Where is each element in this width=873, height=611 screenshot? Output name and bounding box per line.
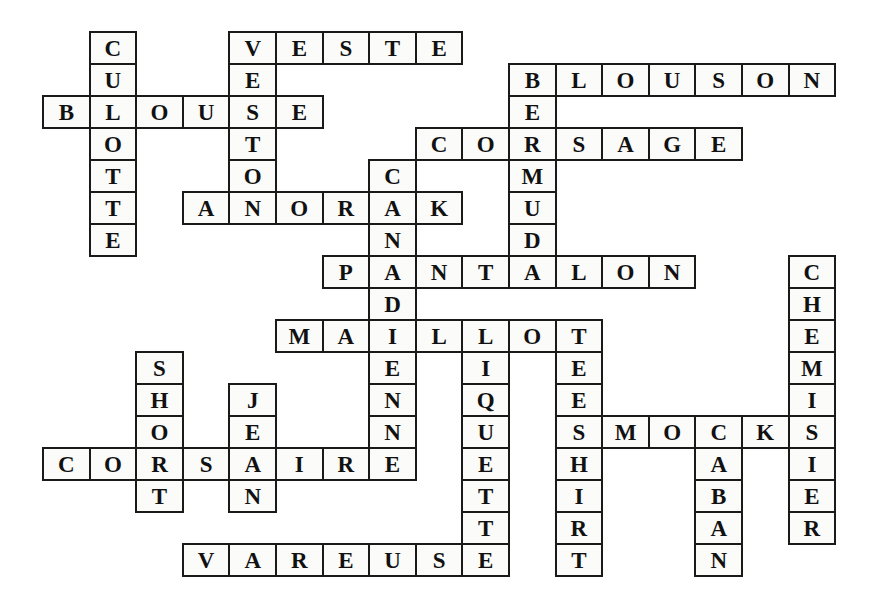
crossword-cell: I bbox=[368, 319, 417, 353]
crossword-cell: L bbox=[89, 95, 138, 129]
crossword-cell: E bbox=[275, 95, 324, 129]
crossword-cell: U bbox=[508, 191, 557, 225]
crossword-cell: S bbox=[415, 543, 464, 577]
crossword-cell: O bbox=[275, 191, 324, 225]
crossword-cell: S bbox=[555, 127, 604, 161]
crossword-cell: U bbox=[648, 63, 697, 97]
crossword-cell: T bbox=[555, 319, 604, 353]
crossword-cell: O bbox=[648, 415, 697, 449]
crossword-cell: R bbox=[788, 511, 837, 545]
crossword-cell: S bbox=[788, 415, 837, 449]
crossword-cell: O bbox=[601, 63, 650, 97]
crossword-cell: C bbox=[694, 415, 743, 449]
crossword-cell: O bbox=[89, 447, 138, 481]
crossword-cell: E bbox=[228, 415, 277, 449]
crossword-cell: E bbox=[788, 479, 837, 513]
crossword-cell: N bbox=[788, 63, 837, 97]
crossword-cell: N bbox=[415, 255, 464, 289]
crossword-cell: M bbox=[788, 351, 837, 385]
crossword-cell: R bbox=[508, 127, 557, 161]
crossword-cell: I bbox=[555, 479, 604, 513]
crossword-cell: N bbox=[228, 191, 277, 225]
crossword-cell: T bbox=[228, 127, 277, 161]
crossword-cell: R bbox=[275, 543, 324, 577]
crossword-cell: O bbox=[461, 127, 510, 161]
crossword-cell: N bbox=[368, 415, 417, 449]
crossword-cell: E bbox=[368, 447, 417, 481]
crossword-cell: E bbox=[89, 223, 138, 257]
crossword-grid: CVESTEUEBLOUSONBLOUSEEOTCORSAGETOCMTANOR… bbox=[0, 0, 873, 611]
crossword-cell: E bbox=[461, 447, 510, 481]
crossword-cell: O bbox=[508, 319, 557, 353]
crossword-cell: A bbox=[601, 127, 650, 161]
crossword-cell: A bbox=[182, 191, 231, 225]
crossword-cell: A bbox=[368, 191, 417, 225]
crossword-cell: V bbox=[228, 31, 277, 65]
crossword-cell: H bbox=[135, 383, 184, 417]
crossword-cell: R bbox=[322, 191, 371, 225]
crossword-cell: K bbox=[415, 191, 464, 225]
crossword-cell: L bbox=[415, 319, 464, 353]
crossword-cell: N bbox=[228, 479, 277, 513]
crossword-cell: N bbox=[368, 223, 417, 257]
crossword-cell: C bbox=[415, 127, 464, 161]
crossword-cell: I bbox=[788, 447, 837, 481]
crossword-cell: M bbox=[601, 415, 650, 449]
crossword-cell: R bbox=[322, 447, 371, 481]
crossword-cell: C bbox=[368, 159, 417, 193]
crossword-cell: C bbox=[788, 255, 837, 289]
crossword-cell: N bbox=[368, 383, 417, 417]
crossword-cell: E bbox=[275, 31, 324, 65]
crossword-cell: O bbox=[228, 159, 277, 193]
crossword-cell: E bbox=[415, 31, 464, 65]
crossword-cell: S bbox=[694, 63, 743, 97]
crossword-cell: G bbox=[648, 127, 697, 161]
crossword-cell: E bbox=[788, 319, 837, 353]
crossword-cell: O bbox=[135, 415, 184, 449]
crossword-cell: J bbox=[228, 383, 277, 417]
crossword-cell: R bbox=[555, 511, 604, 545]
crossword-cell: I bbox=[788, 383, 837, 417]
crossword-cell: L bbox=[555, 255, 604, 289]
crossword-cell: T bbox=[555, 543, 604, 577]
crossword-cell: B bbox=[694, 479, 743, 513]
crossword-cell: N bbox=[648, 255, 697, 289]
crossword-cell: U bbox=[182, 95, 231, 129]
crossword-cell: O bbox=[89, 127, 138, 161]
crossword-cell: A bbox=[694, 511, 743, 545]
crossword-cell: O bbox=[601, 255, 650, 289]
crossword-cell: E bbox=[508, 95, 557, 129]
crossword-cell: E bbox=[228, 63, 277, 97]
crossword-cell: L bbox=[555, 63, 604, 97]
crossword-cell: C bbox=[89, 31, 138, 65]
crossword-cell: H bbox=[555, 447, 604, 481]
crossword-cell: K bbox=[741, 415, 790, 449]
crossword-cell: C bbox=[42, 447, 91, 481]
crossword-cell: U bbox=[368, 543, 417, 577]
crossword-cell: A bbox=[322, 319, 371, 353]
crossword-cell: O bbox=[741, 63, 790, 97]
crossword-cell: H bbox=[788, 287, 837, 321]
crossword-cell: B bbox=[42, 95, 91, 129]
crossword-cell: A bbox=[368, 255, 417, 289]
crossword-cell: S bbox=[182, 447, 231, 481]
crossword-cell: V bbox=[182, 543, 231, 577]
crossword-cell: A bbox=[694, 447, 743, 481]
crossword-cell: A bbox=[508, 255, 557, 289]
crossword-cell: Q bbox=[461, 383, 510, 417]
crossword-cell: T bbox=[461, 511, 510, 545]
crossword-cell: E bbox=[461, 543, 510, 577]
crossword-cell: S bbox=[228, 95, 277, 129]
crossword-cell: D bbox=[368, 287, 417, 321]
crossword-cell: E bbox=[555, 383, 604, 417]
crossword-cell: L bbox=[461, 319, 510, 353]
crossword-cell: T bbox=[461, 255, 510, 289]
crossword-cell: T bbox=[89, 191, 138, 225]
crossword-cell: I bbox=[275, 447, 324, 481]
crossword-cell: E bbox=[555, 351, 604, 385]
crossword-cell: D bbox=[508, 223, 557, 257]
crossword-cell: P bbox=[322, 255, 371, 289]
crossword-cell: T bbox=[368, 31, 417, 65]
crossword-cell: U bbox=[89, 63, 138, 97]
crossword-cell: N bbox=[694, 543, 743, 577]
